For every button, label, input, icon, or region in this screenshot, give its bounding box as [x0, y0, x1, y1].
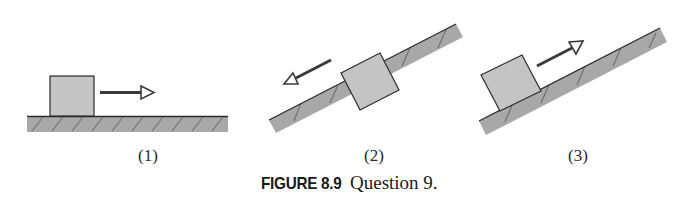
- caption-text: Question 9.: [350, 172, 438, 193]
- panel-label-1: (1): [138, 146, 158, 166]
- figure-8-9: (1) (2) (3) FIGURE 8.9Question 9.: [0, 0, 690, 209]
- figure-caption: FIGURE 8.9Question 9.: [0, 172, 690, 194]
- panel-label-3: (3): [568, 146, 588, 166]
- arrow-right-icon: [100, 86, 154, 99]
- arrow-up-slope-icon: [537, 41, 583, 66]
- panel-label-2: (2): [364, 146, 384, 166]
- block: [50, 76, 94, 116]
- caption-number: FIGURE 8.9: [261, 174, 342, 194]
- panel-1: [27, 76, 228, 132]
- horizontal-surface: [27, 116, 228, 132]
- panel-3: [479, 28, 667, 135]
- arrow-down-slope-icon: [284, 60, 331, 84]
- panel-2: [269, 24, 463, 133]
